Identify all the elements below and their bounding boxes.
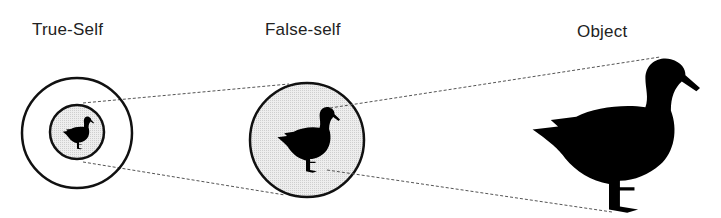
diagram-canvas (0, 0, 721, 218)
projection-line-bottom-2 (327, 170, 612, 212)
object-duck-icon (533, 58, 700, 212)
projection-line-top-2 (330, 57, 660, 108)
